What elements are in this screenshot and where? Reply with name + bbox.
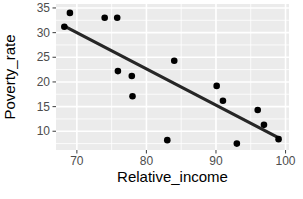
data-point [61,23,68,30]
data-point [67,10,74,17]
data-point [171,57,178,64]
data-point [129,93,136,100]
data-point [254,107,261,114]
plot-panel-background [56,4,289,150]
data-point [275,136,282,143]
x-tick-label: 90 [209,154,223,168]
data-point [220,97,227,104]
y-tick-label: 30 [37,26,51,40]
y-tick-label: 35 [37,1,51,15]
y-tick-label: 10 [37,124,51,138]
x-tick-label: 70 [70,154,84,168]
data-point [114,15,121,22]
data-point [234,140,241,147]
y-tick-label: 20 [37,75,51,89]
y-tick-label: 25 [37,50,51,64]
data-point [261,122,268,129]
x-axis-title: Relative_income [117,168,228,185]
data-point [115,68,122,75]
data-point [164,137,171,144]
x-tick-label: 100 [276,154,296,168]
plot-canvas: 708090100 101520253035 Relative_income P… [0,0,303,199]
data-point [213,83,220,90]
y-tick-label: 15 [37,100,51,114]
scatter-plot-figure: 708090100 101520253035 Relative_income P… [0,0,303,199]
x-tick-label: 80 [140,154,154,168]
data-point [129,73,136,80]
data-point [101,15,108,22]
y-axis-title: Poverty_rate [1,34,18,119]
